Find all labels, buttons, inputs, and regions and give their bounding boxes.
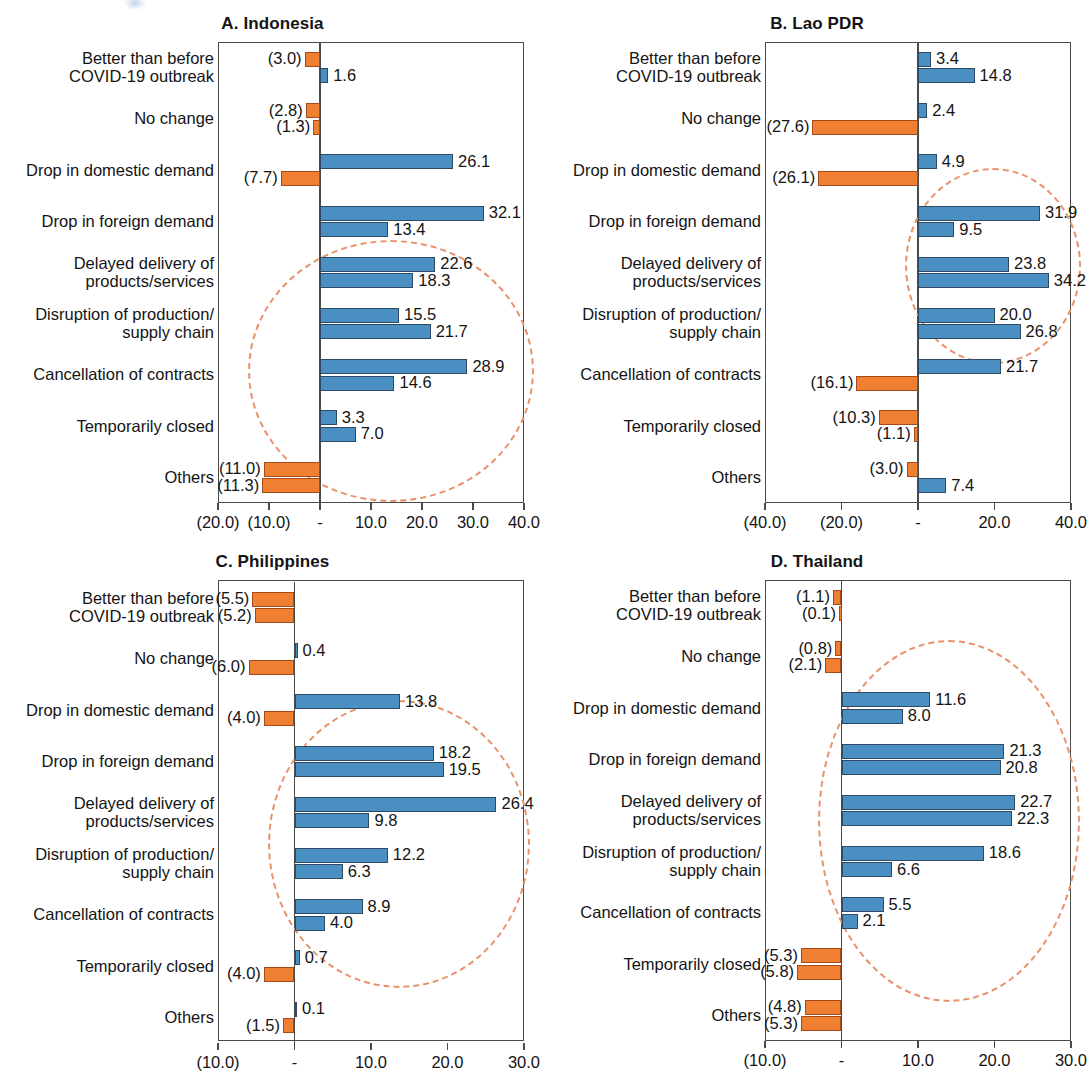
axis-tick-label-indonesia-5: 30.0 xyxy=(457,513,489,532)
value-label-thailand-3-first: 21.3 xyxy=(1009,742,1041,759)
axis-tick-label-thailand-1: - xyxy=(839,1051,845,1070)
value-label-indonesia-6-second: 14.6 xyxy=(399,374,431,391)
axis-tick-label-thailand-4: 30.0 xyxy=(1055,1051,1087,1070)
value-label-thailand-4-second: 22.3 xyxy=(1017,810,1049,827)
value-label-philippines-6-second: 4.0 xyxy=(330,914,353,931)
bar-indonesia-5-second xyxy=(320,324,431,339)
bar-philippines-1-first xyxy=(295,643,298,658)
value-label-indonesia-7-first: 3.3 xyxy=(342,409,365,426)
bar-philippines-3-second xyxy=(295,762,444,777)
bar-indonesia-7-first xyxy=(320,410,337,425)
value-label-thailand-0-second: (0.1) xyxy=(802,605,836,622)
bar-philippines-5-first xyxy=(295,848,388,863)
bar-indonesia-3-first xyxy=(320,206,484,221)
axis-tick-label-thailand-3: 20.0 xyxy=(978,1051,1010,1070)
bar-philippines-0-second xyxy=(255,608,295,623)
axis-tick-thailand-1 xyxy=(841,1041,842,1048)
bar-indonesia-0-first xyxy=(305,52,320,67)
bar-philippines-7-first xyxy=(295,950,300,965)
axis-tick-label-indonesia-0: (20.0) xyxy=(196,513,239,532)
value-label-thailand-3-second: 20.8 xyxy=(1006,759,1038,776)
value-label-philippines-8-first: 0.1 xyxy=(302,1000,325,1017)
category-label-thailand-0: Better than before COVID-19 outbreak xyxy=(546,587,761,624)
bar-thailand-5-second xyxy=(842,862,892,877)
bar-lao-pdr-6-second xyxy=(856,376,918,391)
value-label-lao-pdr-0-second: 14.8 xyxy=(980,67,1012,84)
value-label-lao-pdr-3-first: 31.9 xyxy=(1045,204,1077,221)
category-label-lao-pdr-8: Others xyxy=(546,468,761,486)
bar-lao-pdr-7-second xyxy=(914,427,918,442)
value-label-indonesia-4-second: 18.3 xyxy=(418,272,450,289)
bar-thailand-4-second xyxy=(842,811,1013,826)
category-label-lao-pdr-6: Cancellation of contracts xyxy=(546,365,761,383)
bar-indonesia-3-second xyxy=(320,222,388,237)
value-label-thailand-5-first: 18.6 xyxy=(989,844,1021,861)
bar-lao-pdr-2-first xyxy=(918,154,937,169)
bar-philippines-2-second xyxy=(264,711,295,726)
bar-lao-pdr-7-first xyxy=(879,410,918,425)
axis-tick-label-indonesia-3: 10.0 xyxy=(355,513,387,532)
category-label-philippines-2: Drop in domestic demand xyxy=(0,701,214,719)
value-label-lao-pdr-5-second: 26.8 xyxy=(1026,323,1058,340)
category-label-lao-pdr-2: Drop in domestic demand xyxy=(546,161,761,179)
value-label-indonesia-7-second: 7.0 xyxy=(361,425,384,442)
axis-tick-indonesia-3 xyxy=(370,503,371,510)
value-label-indonesia-2-first: 26.1 xyxy=(458,153,490,170)
value-label-indonesia-0-first: (3.0) xyxy=(268,50,302,67)
category-label-philippines-0: Better than before COVID-19 outbreak xyxy=(0,589,214,626)
axis-tick-thailand-2 xyxy=(917,1041,918,1048)
value-label-indonesia-3-second: 13.4 xyxy=(393,221,425,238)
axis-tick-indonesia-0 xyxy=(217,503,218,510)
axis-tick-philippines-1 xyxy=(294,1043,295,1050)
category-label-indonesia-3: Drop in foreign demand xyxy=(0,212,214,230)
value-label-philippines-3-second: 19.5 xyxy=(449,761,481,778)
bar-lao-pdr-3-second xyxy=(918,222,954,237)
value-label-thailand-7-first: (5.3) xyxy=(764,947,798,964)
axis-tick-label-lao-pdr-3: 20.0 xyxy=(978,513,1010,532)
value-label-indonesia-2-second: (7.7) xyxy=(244,169,278,186)
bar-thailand-1-first xyxy=(835,641,841,656)
bar-indonesia-1-second xyxy=(313,120,320,135)
category-label-indonesia-0: Better than before COVID-19 outbreak xyxy=(0,49,214,86)
value-label-philippines-5-second: 6.3 xyxy=(348,863,371,880)
axis-tick-indonesia-5 xyxy=(472,503,473,510)
value-label-lao-pdr-7-second: (1.1) xyxy=(877,425,911,442)
value-label-philippines-0-first: (5.5) xyxy=(215,590,249,607)
value-label-lao-pdr-0-first: 3.4 xyxy=(936,50,959,67)
value-label-indonesia-1-second: (1.3) xyxy=(276,118,310,135)
axis-tick-label-philippines-4: 30.0 xyxy=(508,1053,540,1072)
category-label-thailand-6: Cancellation of contracts xyxy=(546,903,761,921)
value-label-thailand-2-second: 8.0 xyxy=(908,707,931,724)
value-label-philippines-4-second: 9.8 xyxy=(374,812,397,829)
category-label-indonesia-7: Temporarily closed xyxy=(0,417,214,435)
axis-tick-lao-pdr-4 xyxy=(1070,503,1071,510)
bar-philippines-6-first xyxy=(295,899,363,914)
axis-tick-label-lao-pdr-4: 40.0 xyxy=(1055,513,1087,532)
value-label-philippines-2-first: 13.8 xyxy=(405,693,437,710)
value-label-philippines-8-second: (1.5) xyxy=(246,1017,280,1034)
value-label-philippines-5-first: 12.2 xyxy=(393,846,425,863)
bar-indonesia-2-second xyxy=(281,171,320,186)
bar-thailand-3-second xyxy=(842,760,1001,775)
category-label-lao-pdr-7: Temporarily closed xyxy=(546,417,761,435)
axis-tick-label-indonesia-2: - xyxy=(317,513,323,532)
value-label-thailand-4-first: 22.7 xyxy=(1020,793,1052,810)
value-label-indonesia-8-second: (11.3) xyxy=(217,477,259,494)
bar-philippines-4-first xyxy=(295,797,497,812)
axis-tick-philippines-4 xyxy=(523,1043,524,1050)
bar-thailand-8-second xyxy=(801,1016,842,1031)
bar-thailand-2-first xyxy=(842,692,931,707)
value-label-lao-pdr-4-first: 23.8 xyxy=(1014,255,1046,272)
bar-indonesia-8-second xyxy=(262,478,320,493)
axis-tick-philippines-3 xyxy=(447,1043,448,1050)
bar-philippines-7-second xyxy=(264,967,295,982)
value-label-lao-pdr-1-first: 2.4 xyxy=(932,102,955,119)
category-label-thailand-7: Temporarily closed xyxy=(546,955,761,973)
axis-tick-indonesia-2 xyxy=(319,503,320,510)
category-label-thailand-4: Delayed delivery of products/services xyxy=(546,792,761,829)
value-label-lao-pdr-8-first: (3.0) xyxy=(870,460,904,477)
category-label-thailand-5: Disruption of production/ supply chain xyxy=(546,843,761,880)
bar-philippines-5-second xyxy=(295,864,343,879)
axis-tick-lao-pdr-2 xyxy=(917,503,918,510)
bar-indonesia-6-first xyxy=(320,359,467,374)
